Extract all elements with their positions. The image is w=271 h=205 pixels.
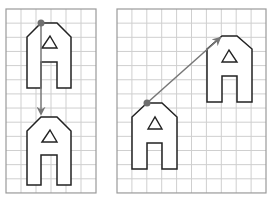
shape-original: [132, 103, 177, 169]
right-panel: [117, 9, 266, 193]
shape-original: [27, 23, 71, 88]
shape-image: [27, 117, 71, 185]
start-point: [38, 20, 45, 27]
translation-diagram: [0, 0, 271, 205]
left-panel: [6, 9, 96, 193]
shape-image: [207, 36, 252, 102]
start-point: [144, 100, 151, 107]
